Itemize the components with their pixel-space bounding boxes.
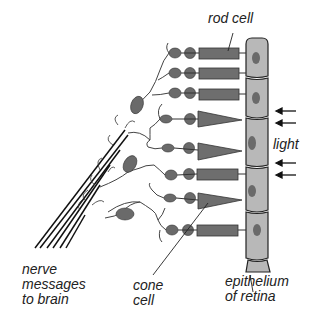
cone-cell-label: cone cell <box>133 278 163 308</box>
epithelium-label-line1: epithelium <box>225 274 289 289</box>
rod-cell-label: rod cell <box>208 11 253 26</box>
light-label: light <box>273 137 299 152</box>
ganglion-bodies <box>116 94 146 220</box>
epithelium-label-line2: of retina <box>225 289 289 304</box>
cone-label-line2: cell <box>133 293 163 308</box>
nerve-label-line1: nerve <box>22 262 86 277</box>
cone-label-line1: cone <box>133 278 163 293</box>
nerve-label-line3: to brain <box>22 292 86 307</box>
epithelium <box>246 38 270 272</box>
nerve-label-line2: messages <box>22 277 86 292</box>
nerve-fibres <box>35 130 128 248</box>
cone-cells <box>198 111 242 209</box>
epithelium-label: epithelium of retina <box>225 274 289 304</box>
nerve-messages-label: nerve messages to brain <box>22 262 86 307</box>
cone-pointer <box>153 203 208 275</box>
